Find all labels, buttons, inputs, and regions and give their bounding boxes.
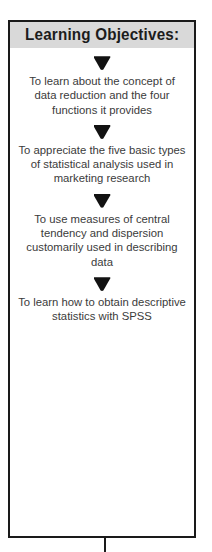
list-item: To appreciate the five basic types of st… bbox=[10, 117, 194, 186]
down-triangle-icon bbox=[94, 276, 111, 291]
panel-empty-space bbox=[10, 324, 194, 536]
list-item: To learn about the concept of data reduc… bbox=[10, 48, 194, 117]
objective-text: To use measures of central tendency and … bbox=[18, 212, 186, 269]
list-item: To learn how to obtain descriptive stati… bbox=[10, 269, 194, 324]
objective-text: To appreciate the five basic types of st… bbox=[18, 143, 186, 186]
objectives-list: To learn about the concept of data reduc… bbox=[10, 48, 194, 536]
objective-text: To learn about the concept of data reduc… bbox=[18, 74, 186, 117]
down-triangle-icon bbox=[94, 55, 111, 70]
learning-objectives-panel: Learning Objectives: To learn about the … bbox=[8, 20, 196, 538]
panel-header: Learning Objectives: bbox=[10, 22, 194, 48]
page-title: Learning Objectives: bbox=[25, 26, 179, 44]
down-triangle-icon bbox=[94, 124, 111, 139]
list-item: To use measures of central tendency and … bbox=[10, 186, 194, 269]
connector-stem bbox=[104, 538, 106, 552]
down-triangle-icon bbox=[94, 193, 111, 208]
objective-text: To learn how to obtain descriptive stati… bbox=[18, 295, 186, 324]
